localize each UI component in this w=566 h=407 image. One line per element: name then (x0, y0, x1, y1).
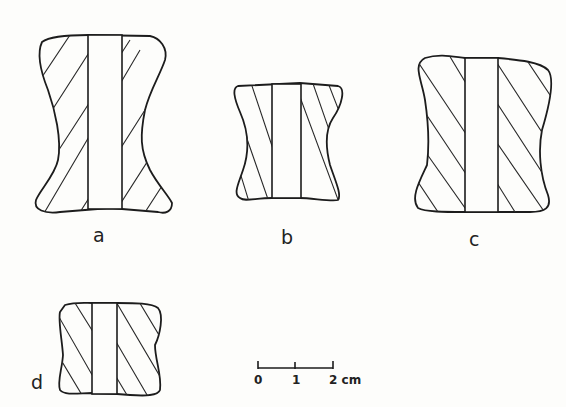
scale-tick-0: 0 (254, 373, 262, 387)
label-c: c (469, 228, 479, 250)
bore-c (465, 58, 498, 212)
bore-a (88, 35, 122, 209)
label-a: a (93, 224, 105, 246)
artifact-a (20, 20, 200, 220)
artifact-b (230, 70, 360, 205)
scale-bar: 0 1 2 cm (254, 361, 361, 387)
bore-d (92, 303, 117, 394)
artifact-d (55, 295, 165, 400)
scale-tick-1: 1 (292, 373, 300, 387)
scale-tick-2cm: 2 cm (329, 373, 361, 387)
label-b: b (281, 226, 293, 248)
bore-b (272, 84, 301, 198)
artifact-drawing-figure: a b c d 0 1 2 cm (0, 0, 566, 407)
label-d: d (31, 371, 43, 393)
artifact-c (410, 40, 560, 220)
